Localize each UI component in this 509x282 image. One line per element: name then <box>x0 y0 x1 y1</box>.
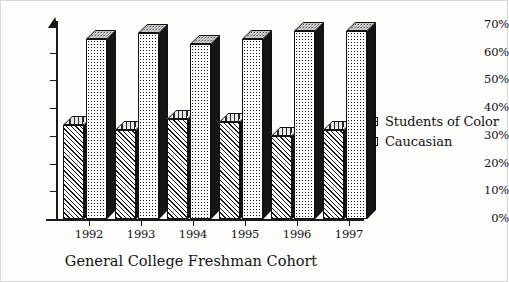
legend-label: Students of Color <box>385 114 499 129</box>
x-axis-tick-mark <box>245 221 246 226</box>
y-axis-tick-label: 60% <box>463 47 509 59</box>
bar-front-face <box>242 39 263 219</box>
bar-front-face <box>294 31 315 219</box>
y-axis-tick-label: 50% <box>463 74 509 86</box>
y-axis-tick-label: 70% <box>463 19 509 31</box>
y-axis-tick-mark <box>50 219 56 220</box>
bar-side-face <box>367 21 376 219</box>
bar-front-face <box>271 136 292 219</box>
bar-front-face <box>63 125 84 219</box>
bar-1995-caucasian <box>242 39 263 219</box>
y-axis-tick-mark <box>50 108 56 109</box>
x-axis-category-label: 1995 <box>218 227 272 241</box>
chart-legend: Students of Color Caucasian <box>369 113 503 153</box>
x-axis-category-label: 1993 <box>114 227 168 241</box>
legend-label: Caucasian <box>385 134 452 149</box>
bar-1997-students-of-color <box>323 130 344 219</box>
y-axis-tick-mark <box>50 136 56 137</box>
y-axis-tick-mark <box>50 191 56 192</box>
bar-front-face <box>219 122 240 219</box>
x-axis-category-label: 1997 <box>322 227 376 241</box>
y-axis-tick-mark <box>50 80 56 81</box>
x-axis-category-label: 1996 <box>270 227 324 241</box>
bar-1992-students-of-color <box>63 125 84 219</box>
bar-front-face <box>115 130 136 219</box>
x-axis-tick-mark <box>349 221 350 226</box>
bar-front-face <box>86 39 107 219</box>
bar-1992-caucasian <box>86 39 107 219</box>
x-axis-title: General College Freshman Cohort <box>21 253 361 269</box>
y-axis-tick-label: 0% <box>463 213 509 225</box>
y-axis-tick-label: 40% <box>463 102 509 114</box>
y-axis-tick-mark <box>50 53 56 54</box>
bar-1996-students-of-color <box>271 136 292 219</box>
bar-1997-caucasian <box>346 31 367 219</box>
x-axis-tick-mark <box>297 221 298 226</box>
x-axis-tick-mark <box>141 221 142 226</box>
y-axis-tick-mark <box>50 25 56 26</box>
legend-item-caucasian: Caucasian <box>369 133 503 149</box>
x-axis-tick-mark <box>89 221 90 226</box>
bar-1994-caucasian <box>190 44 211 219</box>
bar-front-face <box>167 119 188 219</box>
bar-front-face <box>138 33 159 219</box>
bar-1994-students-of-color <box>167 119 188 219</box>
legend-item-students-of-color: Students of Color <box>369 113 503 129</box>
bar-front-face <box>190 44 211 219</box>
x-axis-category-label: 1992 <box>62 227 116 241</box>
bar-front-face <box>346 31 367 219</box>
bar-front-face <box>323 130 344 219</box>
bar-1996-caucasian <box>294 31 315 219</box>
bar-1993-caucasian <box>138 33 159 219</box>
x-axis-tick-mark <box>193 221 194 226</box>
x-axis-category-label: 1994 <box>166 227 220 241</box>
y-axis-tick-mark <box>50 164 56 165</box>
y-axis-tick-label: 20% <box>463 158 509 170</box>
y-axis-tick-label: 10% <box>463 185 509 197</box>
bar-1993-students-of-color <box>115 130 136 219</box>
bar-1995-students-of-color <box>219 122 240 219</box>
